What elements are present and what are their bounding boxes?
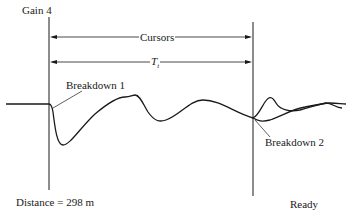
breakdown-1-label: Breakdown 1 (66, 79, 125, 91)
gain-label: Gain 4 (22, 4, 52, 16)
arrowhead-right-icon (245, 60, 252, 64)
breakdown-1-leader (53, 91, 82, 108)
breakdown-2-label: Breakdown 2 (265, 136, 324, 148)
status-text: Ready (290, 198, 318, 210)
waveform-trace-2 (253, 103, 342, 121)
distance-readout: Distance = 298 m (16, 196, 94, 208)
time-span-subscript: t (157, 62, 159, 70)
arrowhead-right-icon (245, 35, 252, 39)
breakdown-2-leader (255, 120, 270, 137)
arrowhead-left-icon (50, 35, 57, 39)
cursors-label: Cursors (139, 31, 175, 43)
time-span-label: Tt (150, 55, 160, 72)
arrowhead-left-icon (50, 60, 57, 64)
tdr-trace-display (0, 0, 353, 215)
